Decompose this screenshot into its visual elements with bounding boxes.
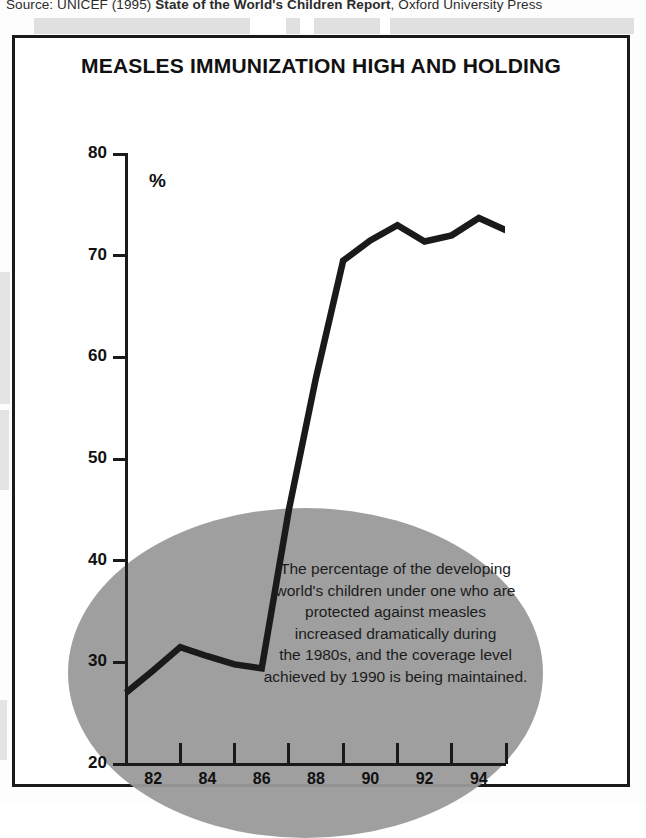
- annotation-line: achieved by 1990 is being maintained.: [248, 666, 543, 688]
- annotation-line: world's children under one who are: [248, 580, 543, 602]
- scan-artifact-gap: [380, 16, 390, 34]
- annotation-line: increased dramatically during: [248, 623, 543, 645]
- annotation-line: the 1980s, and the coverage level: [248, 644, 543, 666]
- chart-annotation: The percentage of the developingworld's …: [248, 558, 543, 687]
- source-prefix: Source: UNICEF (1995): [6, 0, 155, 12]
- y-tick-label: 40: [65, 550, 107, 570]
- x-tick-label: 88: [296, 770, 336, 788]
- x-tick-label: 92: [405, 770, 445, 788]
- scan-artifact: [0, 272, 10, 404]
- scan-artifact-gap: [250, 16, 286, 34]
- plot-area: % 20304050607080 82848688909294 The perc…: [113, 118, 505, 768]
- annotation-line: protected against measles: [248, 601, 543, 623]
- y-tick-label: 80: [65, 143, 107, 163]
- scan-artifact: [0, 410, 9, 490]
- y-tick-label: 50: [65, 448, 107, 468]
- chart-title: MEASLES IMMUNIZATION HIGH AND HOLDING: [15, 54, 627, 78]
- annotation-line: The percentage of the developing: [248, 558, 543, 580]
- scan-artifact-band: [34, 18, 634, 34]
- x-tick-label: 86: [242, 770, 282, 788]
- y-tick-label: 20: [65, 753, 107, 773]
- y-tick-label: 70: [65, 245, 107, 265]
- x-tick-label: 94: [459, 770, 499, 788]
- scan-artifact: [0, 700, 7, 760]
- source-suffix: , Oxford University Press: [391, 0, 543, 12]
- x-tick-label: 82: [133, 770, 173, 788]
- source-title: State of the World's Children Report: [155, 0, 390, 12]
- source-citation: Source: UNICEF (1995) State of the World…: [6, 0, 646, 13]
- chart-frame: MEASLES IMMUNIZATION HIGH AND HOLDING % …: [12, 35, 630, 787]
- scan-artifact-gap: [300, 16, 314, 34]
- y-tick-label: 30: [65, 651, 107, 671]
- x-tick-label: 90: [350, 770, 390, 788]
- x-tick-label: 84: [187, 770, 227, 788]
- y-tick-label: 60: [65, 346, 107, 366]
